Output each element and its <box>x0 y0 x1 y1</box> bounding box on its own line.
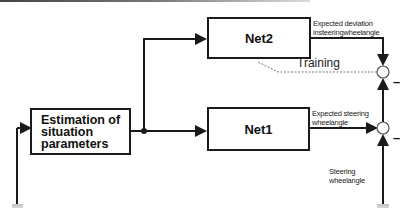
net1-block: Net1 <box>207 107 310 151</box>
net1-output-label: Expected steering wheelangle <box>312 109 369 127</box>
measured-input-label: Steering wheelangle <box>329 167 365 185</box>
net2-block: Net2 <box>207 17 311 59</box>
summing-junction-lower <box>377 122 389 134</box>
training-label: Training <box>297 56 340 70</box>
net1-block-label: Net1 <box>244 122 272 137</box>
summing-junction-upper <box>377 66 389 78</box>
estimation-block-label: Estimation of situation parameters <box>41 114 120 150</box>
ground-symbol-left <box>12 128 30 207</box>
net2-block-label: Net2 <box>245 31 273 46</box>
minus-sign-upper: – <box>393 74 400 89</box>
estimation-block: Estimation of situation parameters <box>30 108 131 155</box>
minus-sign-lower: – <box>393 130 400 145</box>
net2-output-label: Expected deviation insteeringwheelangle <box>313 19 379 37</box>
